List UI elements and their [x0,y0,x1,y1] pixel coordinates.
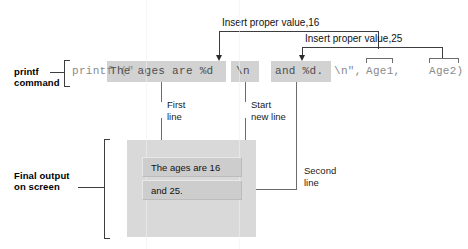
annotation-insert-value-25: Insert proper value,25 [305,33,402,45]
label-first-line: First line [167,99,185,122]
label-start-new-line: Start new line [251,99,286,122]
label-final-output-line1: Final output [14,170,84,181]
code-newline-second: \n", [334,65,362,77]
diagram-canvas: Insert proper value,16 Insert proper val… [0,0,468,249]
label-first-line-2: line [167,111,185,123]
label-start-new-line-1: Start [251,99,286,111]
bracket-above-age1 [366,58,393,63]
leader-printf-command [50,72,64,73]
connector-start-new-line-upper [245,82,246,102]
bracket-code-statement [64,60,70,87]
bracket-above-age2 [429,58,459,63]
label-final-output: Final output on screen [14,170,84,192]
label-final-output-line2: on screen [14,181,84,192]
connector-second-line-drop [296,82,297,189]
connector-25-right-drop [442,47,443,58]
page-seam-left [146,0,147,249]
label-second-line-1: Second [304,165,336,177]
code-arg-age2: Age2) [429,65,464,77]
connector-16-left-drop [219,31,220,58]
label-first-line-1: First [167,99,185,111]
label-printf-command-line2: command [14,77,62,88]
label-second-line-2: line [304,177,336,189]
connector-25-horizontal [302,47,443,48]
label-second-line: Second line [304,165,336,188]
code-arg-age1: Age1, [366,65,401,77]
label-printf-command: printf command [14,66,62,88]
leader-final-output [78,187,104,188]
code-format-second: and %d. [275,65,323,77]
label-start-new-line-2: new line [251,111,286,123]
connector-16-horizontal [219,31,379,32]
connector-first-line-upper [161,82,162,102]
annotation-insert-value-16: Insert proper value,16 [222,17,319,29]
page-seam-right [239,0,240,249]
output-line-2-text: and 25. [151,185,183,196]
output-line-1-text: The ages are 16 [151,162,220,173]
bracket-output-screen [104,139,110,239]
code-format-first: The ages are %d [110,65,214,77]
